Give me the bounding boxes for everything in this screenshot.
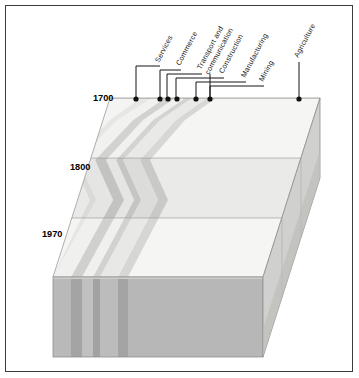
block-diagram-svg: Services Commerce Transport and communic… — [0, 0, 359, 378]
front-band-5 — [100, 277, 118, 357]
slab-tint-3 — [53, 218, 282, 277]
leader-services — [136, 66, 160, 99]
block-diagram-stage: Services Commerce Transport and communic… — [0, 0, 359, 378]
dot-agriculture — [296, 96, 301, 101]
label-services: Services — [153, 33, 175, 63]
dot-services — [133, 96, 138, 101]
dot-construction — [174, 96, 179, 101]
front-band-2 — [71, 277, 82, 357]
dot-transport — [165, 96, 170, 101]
slab-tint-2 — [72, 158, 301, 218]
front-band-3 — [82, 277, 93, 357]
year-label-1970: 1970 — [42, 229, 62, 239]
block-front-face — [53, 277, 263, 357]
dot-mining — [207, 96, 212, 101]
leader-manufacturing — [196, 82, 246, 99]
year-label-1700: 1700 — [93, 93, 113, 103]
leader-mining — [210, 86, 264, 99]
label-mining: Mining — [257, 59, 276, 83]
front-band-4 — [93, 277, 100, 357]
dot-commerce — [157, 96, 162, 101]
leader-construction — [176, 78, 224, 99]
slab-tint-1 — [91, 98, 320, 158]
front-band-6 — [118, 277, 128, 357]
dot-manufacturing — [193, 96, 198, 101]
year-label-1800: 1800 — [70, 162, 90, 172]
front-band-7 — [128, 277, 263, 357]
label-commerce: Commerce — [174, 30, 199, 67]
front-band-1 — [53, 277, 71, 357]
label-agriculture: Agriculture — [292, 22, 317, 59]
